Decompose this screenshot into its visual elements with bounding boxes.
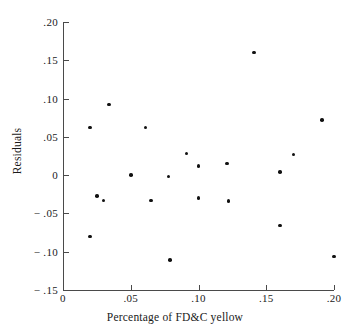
x-tick-label: .05 [116,292,146,304]
x-tick-label: .20 [319,292,349,304]
y-axis-tick-labels: .20.15.10.050− .05− .10− .15 [20,0,58,334]
data-point [107,103,111,107]
data-point [168,258,172,262]
data-point [88,126,92,130]
data-point [129,173,133,177]
x-axis-line [63,290,334,291]
x-tick-label: 0 [48,292,78,304]
y-tick-mark [64,252,69,253]
data-point [320,118,324,122]
scatter-plot-figure: .20.15.10.050− .05− .10− .15 0.05.10.15.… [0,0,350,334]
data-point [88,235,92,239]
plot-area: .20.15.10.050− .05− .10− .15 0.05.10.15.… [0,0,350,334]
y-tick-mark [64,213,69,214]
y-tick-label: .15 [24,55,58,66]
y-tick-mark [64,22,69,23]
x-tick-label: .15 [251,292,281,304]
x-tick-mark [334,285,335,290]
y-tick-mark [64,290,69,291]
x-tick-mark [63,285,64,290]
x-tick-mark [131,285,132,290]
data-point [252,51,256,55]
data-point [332,255,336,259]
y-tick-label: .05 [24,132,58,143]
y-axis-line [63,22,64,290]
data-point [278,170,282,174]
x-axis-title: Percentage of FD&C yellow [0,311,350,323]
data-point [95,194,99,198]
y-tick-label: .20 [24,17,58,28]
x-tick-label: .10 [184,292,214,304]
x-tick-mark [266,285,267,290]
y-tick-mark [64,137,69,138]
y-tick-label: .10 [24,94,58,105]
data-point [197,196,201,200]
y-axis-title: Residuals [11,101,23,201]
data-point [149,199,153,203]
data-point [197,164,201,168]
y-tick-mark [64,175,69,176]
data-point [167,175,171,179]
y-tick-mark [64,99,69,100]
data-point [225,162,229,166]
data-point [102,199,106,203]
data-point [227,199,231,203]
data-point [292,153,296,157]
x-tick-mark [199,285,200,290]
y-tick-label: 0 [24,170,58,181]
y-tick-mark [64,60,69,61]
y-tick-label: − .05 [24,208,58,219]
data-point [144,126,148,130]
y-tick-label: − .10 [24,247,58,258]
data-point [185,152,189,156]
data-point [278,224,282,228]
